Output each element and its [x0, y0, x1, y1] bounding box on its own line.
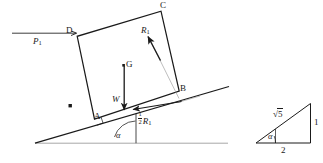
- friction-force-label: 12R1: [138, 111, 152, 127]
- centre-of-gravity-label: G: [126, 60, 133, 69]
- weight-force-label: W: [112, 95, 120, 104]
- vertex-label-c: C: [160, 1, 166, 10]
- incline-angle-label: α: [116, 131, 120, 140]
- inset-hypotenuse-label: √5: [272, 110, 283, 119]
- vertex-label-b: B: [180, 84, 186, 93]
- inset-hypotenuse-value: 5: [277, 108, 283, 119]
- friction-force-arrow: [133, 102, 182, 110]
- vertex-label-a: A: [94, 112, 101, 121]
- normal-force-subscript: 1: [147, 28, 150, 35]
- physics-diagram: C B D A G P1 R1 12R1 W α √5 1 2 α: [0, 0, 323, 163]
- friction-force-subscript: 1: [148, 119, 151, 126]
- applied-force-label: P1: [33, 37, 42, 47]
- marker-dot: [69, 104, 72, 107]
- centre-of-gravity-dot: [122, 64, 125, 67]
- inset-angle-label: α: [268, 132, 272, 141]
- diagram-canvas: [0, 0, 323, 163]
- normal-force-label: R1: [141, 26, 150, 36]
- vertex-label-d: D: [66, 26, 73, 35]
- applied-force-subscript: 1: [39, 39, 42, 46]
- square-root-icon: √5: [272, 110, 283, 119]
- friction-coefficient-fraction: 12: [138, 111, 142, 125]
- inset-triangle-outline: [256, 104, 311, 144]
- friction-coefficient-denominator: 2: [138, 119, 142, 126]
- incline-surface: [35, 87, 229, 144]
- inset-adjacent-label: 2: [281, 146, 286, 155]
- inset-opposite-label: 1: [314, 118, 319, 127]
- normal-force-arrow: [148, 37, 161, 61]
